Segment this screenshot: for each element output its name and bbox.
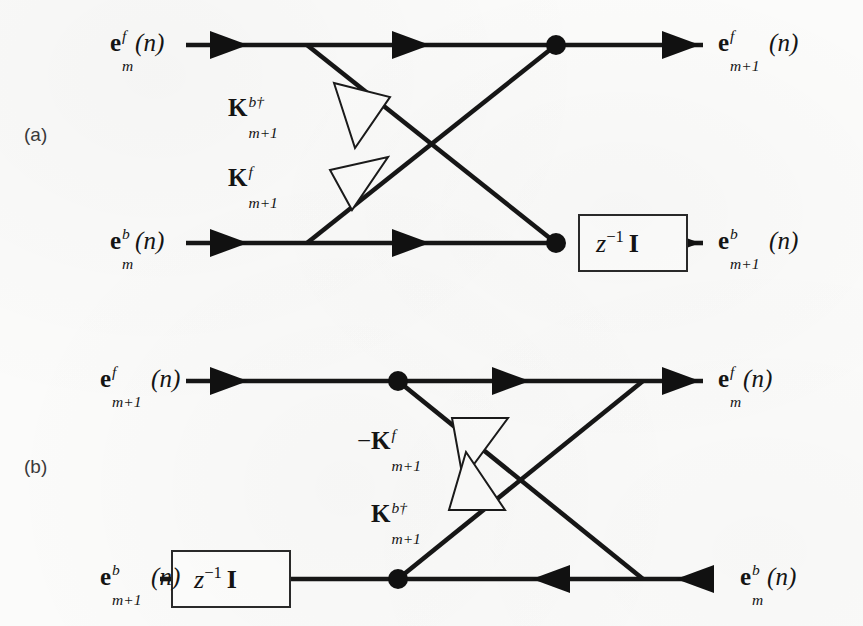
e-symbol: e (718, 365, 729, 392)
arg-n: (n) (151, 365, 180, 392)
sub-mp1: m+1 (112, 592, 141, 608)
minus-sign: − (357, 427, 371, 454)
arg-n: (n) (135, 29, 164, 56)
b-arrow-top-out (662, 367, 700, 395)
label-b-output-forward: efm(n) (718, 366, 772, 391)
b-arrow-top-in (210, 367, 248, 395)
a-arrow-top-mid (392, 31, 430, 59)
z-symbol: z (194, 565, 204, 594)
sub-m: m (122, 256, 133, 272)
e-symbol: e (110, 227, 121, 254)
K-symbol: K (228, 94, 247, 121)
label-a-gain-backward: Kb†m+1 (228, 95, 247, 120)
e-symbol: e (100, 365, 111, 392)
a-arrow-bot-in (210, 229, 248, 257)
arg-n: (n) (767, 563, 796, 590)
signal-flow-diagram (0, 0, 863, 626)
arg-n: (n) (769, 29, 798, 56)
e-symbol: e (740, 563, 751, 590)
panel-b-tag: (b) (24, 456, 47, 478)
e-symbol: e (110, 29, 121, 56)
sup-f: f (112, 364, 116, 380)
label-a-input-forward: efm(n) (110, 30, 164, 55)
sub-mp1: m+1 (248, 195, 277, 211)
sub-mp1: m+1 (730, 256, 759, 272)
sup-f: f (730, 364, 734, 380)
identity-matrix: I (227, 565, 237, 594)
sup-b: b (730, 226, 738, 242)
a-gain-triangle-top (334, 83, 390, 148)
label-b-gain-forward-negative: −Kfm+1 (357, 428, 391, 453)
sup-bdag: b† (391, 500, 407, 516)
e-symbol: e (100, 563, 111, 590)
K-symbol: K (371, 500, 390, 527)
label-a-delay: z−1I (596, 229, 639, 257)
a-arrow-bot-mid (392, 229, 430, 257)
sub-mp1: m+1 (248, 125, 277, 141)
a-arrow-top-out (662, 31, 700, 59)
sup-f: f (730, 28, 734, 44)
sub-mp1: m+1 (391, 531, 420, 547)
K-symbol: K (371, 427, 390, 454)
K-symbol: K (228, 164, 247, 191)
b-arrow-top-mid (492, 367, 530, 395)
identity-matrix: I (629, 229, 639, 258)
sup-bdag: b† (248, 94, 264, 110)
sub-m: m (752, 592, 763, 608)
b-node-top (388, 371, 408, 391)
label-b-input-forward: efm+1(n) (100, 366, 180, 391)
sub-m: m (730, 394, 741, 410)
b-arrow-bot-mid (532, 565, 570, 593)
arg-n: (n) (743, 365, 772, 392)
b-node-bottom (388, 569, 408, 589)
sub-m: m (122, 58, 133, 74)
e-symbol: e (718, 227, 729, 254)
arg-n: (n) (151, 563, 180, 590)
z-exponent: −1 (204, 563, 222, 582)
panel-a-tag: (a) (24, 124, 47, 146)
e-symbol: e (718, 29, 729, 56)
z-symbol: z (596, 229, 606, 258)
label-b-delay: z−1I (194, 565, 237, 593)
sup-f: f (248, 164, 252, 180)
sup-b: b (752, 562, 760, 578)
label-a-gain-forward: Kfm+1 (228, 165, 247, 190)
sup-b: b (112, 562, 120, 578)
z-exponent: −1 (606, 227, 624, 246)
panel-b-graphics (160, 367, 714, 607)
sup-b: b (122, 226, 130, 242)
figure-canvas: (a) (b) efm(n) ebm(n) efm+1(n) ebm+1(n) … (0, 0, 863, 626)
b-arrow-bot-in (676, 565, 714, 593)
arg-n: (n) (135, 227, 164, 254)
label-b-output-backward: ebm+1(n) (100, 564, 180, 589)
label-a-output-backward: ebm+1(n) (718, 228, 798, 253)
sub-mp1: m+1 (730, 58, 759, 74)
sup-f: f (392, 427, 396, 443)
label-b-input-backward: ebm(n) (740, 564, 796, 589)
label-b-gain-backward: Kb†m+1 (371, 501, 390, 526)
label-a-output-forward: efm+1(n) (718, 30, 798, 55)
a-arrow-top-in (210, 31, 248, 59)
sub-mp1: m+1 (392, 458, 421, 474)
sub-mp1: m+1 (112, 394, 141, 410)
a-node-top (546, 35, 566, 55)
a-node-bottom (546, 233, 566, 253)
arg-n: (n) (769, 227, 798, 254)
sup-f: f (122, 28, 126, 44)
label-a-input-backward: ebm(n) (110, 228, 164, 253)
